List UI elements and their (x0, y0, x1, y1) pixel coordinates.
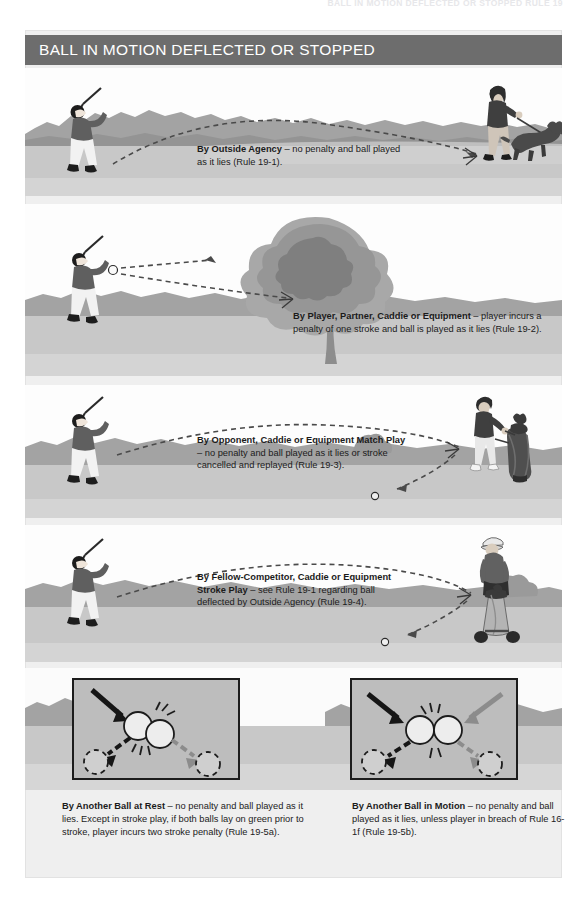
panel-3-caption-rest: – no penalty and ball played as it lies … (197, 448, 388, 471)
page-title: BALL IN MOTION DEFLECTED OR STOPPED (25, 35, 562, 65)
running-head: BALL IN MOTION DEFLECTED OR STOPPED RULE… (0, 0, 587, 9)
diagram-ball-at-rest (74, 680, 238, 778)
detail-caption-2-bold: By Another Ball in Motion (352, 801, 465, 811)
diagram-ball-in-motion (352, 680, 516, 778)
panel-2-caption: By Player, Partner, Caddie or Equipment … (293, 310, 543, 335)
detail-caption-1-bold: By Another Ball at Rest (62, 801, 165, 811)
golf-ball (371, 492, 378, 499)
detail-caption-another-ball-in-motion: By Another Ball in Motion – no penalty a… (352, 800, 567, 838)
panel-4-caption: By Fellow-Competitor, Caddie or Equipmen… (197, 571, 412, 609)
ball-at-rest (146, 720, 174, 748)
panel-another-ball-strip (25, 668, 562, 790)
panel-opponent-match-play: By Opponent, Caddie or Equipment Match P… (25, 385, 562, 518)
resting-position-right (478, 752, 502, 776)
panel-3-caption-bold: By Opponent, Caddie or Equipment Match P… (197, 435, 405, 445)
resting-position-left (84, 750, 108, 774)
detail-box-another-ball-in-motion (350, 678, 518, 780)
panel-2-scene (25, 204, 562, 376)
detail-box-another-ball-at-rest (72, 678, 240, 780)
ball-left (406, 716, 434, 744)
panel-2-caption-bold: By Player, Partner, Caddie or Equipment (293, 311, 471, 321)
detail-caption-another-ball-at-rest: By Another Ball at Rest – no penalty and… (62, 800, 312, 838)
resting-position-right (196, 752, 220, 776)
golf-ball (381, 638, 388, 645)
panel-3-caption: By Opponent, Caddie or Equipment Match P… (197, 434, 412, 472)
panel-1-caption-bold: By Outside Agency (197, 144, 282, 154)
panel-outside-agency: By Outside Agency – no penalty and ball … (25, 68, 562, 196)
panel-fellow-competitor-stroke-play: By Fellow-Competitor, Caddie or Equipmen… (25, 525, 562, 662)
resting-position-left (362, 750, 386, 774)
panel-1-scene (25, 68, 562, 196)
rules-infographic-page: BALL IN MOTION DEFLECTED OR STOPPED RULE… (0, 0, 587, 898)
panel-1-caption: By Outside Agency – no penalty and ball … (197, 143, 412, 168)
golf-ball (109, 266, 118, 275)
panel-player-partner-caddie: By Player, Partner, Caddie or Equipment … (25, 204, 562, 376)
ball-right (434, 716, 462, 744)
